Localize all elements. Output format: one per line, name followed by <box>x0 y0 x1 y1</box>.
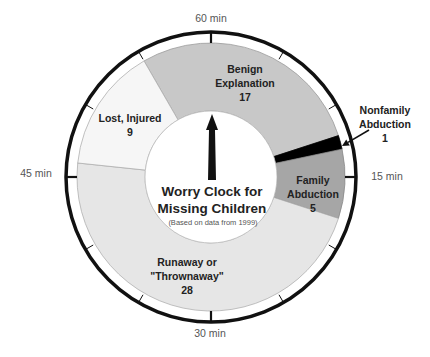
tick-20-min <box>329 245 337 250</box>
label-15-min: 15 min <box>371 170 403 182</box>
tick-55-min <box>139 51 144 59</box>
chart-title-line-2: Missing Children <box>158 201 267 216</box>
label-45-min: 45 min <box>20 167 52 179</box>
chart-title-line-1: Worry Clock for <box>161 184 263 199</box>
label-60-min: 60 min <box>195 12 227 24</box>
tick-50-min <box>85 105 93 110</box>
tick-5-min <box>279 51 284 59</box>
label-30-min: 30 min <box>194 327 226 339</box>
chart-subtitle: (Based on data from 1999) <box>168 218 258 227</box>
worry-clock-chart: BenignExplanation17NonfamilyAbduction1Fa… <box>0 0 430 357</box>
label-nonfamily-abduction: NonfamilyAbduction1 <box>359 104 411 144</box>
tick-25-min <box>279 295 284 303</box>
nonfamily-callout-arrow-icon <box>342 130 369 146</box>
tick-10-min <box>329 105 337 110</box>
tick-40-min <box>85 245 93 250</box>
tick-35-min <box>139 295 144 303</box>
